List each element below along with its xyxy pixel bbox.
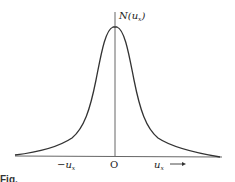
figure-caption: Fig. xyxy=(0,174,18,182)
x-neg-label: −ux xyxy=(57,160,75,171)
x-pos-label: ux xyxy=(154,160,164,171)
x-axis xyxy=(15,156,222,157)
y-axis-label: N(ux) xyxy=(119,11,145,22)
distribution-diagram xyxy=(0,0,235,182)
distribution-curve xyxy=(15,27,220,157)
arrow-head-icon xyxy=(182,162,186,166)
origin-label: O xyxy=(110,160,118,170)
